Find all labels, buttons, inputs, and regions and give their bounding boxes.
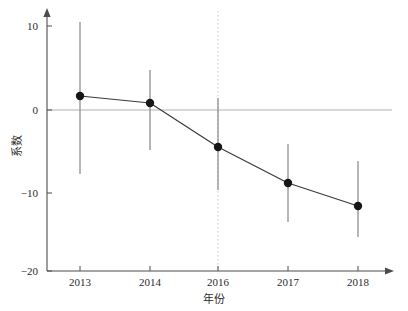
y-axis-title: 系数 [11, 135, 23, 157]
x-tick-label-2014: 2014 [139, 276, 162, 288]
data-point-2013 [76, 92, 84, 100]
data-point-2016 [214, 143, 222, 151]
x-axis-title: 年份 [203, 292, 225, 305]
data-point-2018 [354, 202, 362, 210]
x-tick-label-2017: 2017 [277, 276, 300, 288]
data-point-2017 [284, 179, 292, 187]
y-tick-label-10: 10 [27, 20, 39, 32]
y-tick-label-0: 0 [33, 104, 39, 116]
x-tick-label-2018: 2018 [347, 276, 370, 288]
y-tick-label-neg10: −10 [21, 187, 39, 199]
plot-background [0, 0, 408, 311]
y-tick-label-neg20: −20 [21, 265, 39, 277]
x-tick-label-2016: 2016 [207, 276, 230, 288]
x-tick-label-2013: 2013 [69, 276, 92, 288]
coefficient-plot: 10 0 −10 −20 2013 2014 2016 2017 2018 [0, 0, 408, 311]
data-point-2014 [146, 99, 154, 107]
chart-container: 10 0 −10 −20 2013 2014 2016 2017 2018 [0, 0, 408, 311]
